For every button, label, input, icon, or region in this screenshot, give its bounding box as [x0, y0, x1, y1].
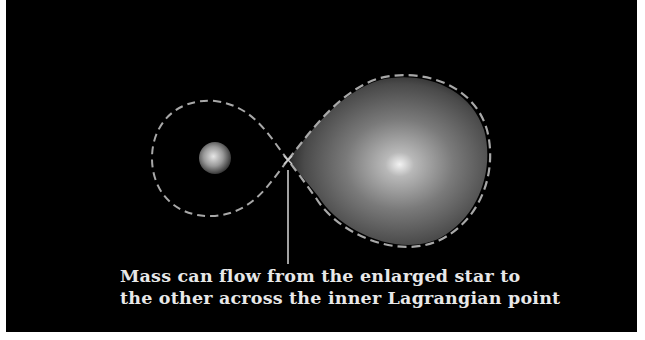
small-star	[199, 142, 231, 174]
caption: Mass can flow from the enlarged star to …	[120, 265, 560, 309]
large-star	[288, 77, 487, 245]
caption-line-2: the other across the inner Lagrangian po…	[120, 287, 560, 309]
caption-line-1: Mass can flow from the enlarged star to	[120, 265, 560, 287]
